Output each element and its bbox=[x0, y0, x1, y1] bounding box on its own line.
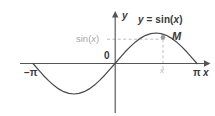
point-M-marker bbox=[161, 35, 166, 40]
x-tick-label-variable: x bbox=[160, 67, 164, 75]
y-value-label: sin(x) bbox=[76, 34, 99, 44]
y-axis-label: y bbox=[122, 11, 128, 21]
x-tick-label-pi: π bbox=[193, 68, 201, 78]
y-value-label-prefix: sin( bbox=[76, 33, 91, 44]
origin-label: 0 bbox=[104, 51, 110, 61]
point-M-label: M bbox=[172, 31, 181, 42]
curve-equation-operator: = sin( bbox=[144, 14, 174, 25]
x-axis-arrowhead bbox=[204, 60, 211, 67]
y-axis-arrowhead bbox=[112, 11, 118, 18]
x-tick-label-neg-pi: −π bbox=[24, 68, 38, 78]
sine-graph-figure: y x y = sin(x) sin(x) M 0 −π π x bbox=[0, 0, 215, 116]
y-value-label-closeparen: ) bbox=[96, 33, 99, 44]
curve-equation-closeparen: ) bbox=[179, 14, 182, 25]
x-axis-label: x bbox=[203, 68, 209, 78]
curve-equation-label: y = sin(x) bbox=[138, 15, 183, 25]
